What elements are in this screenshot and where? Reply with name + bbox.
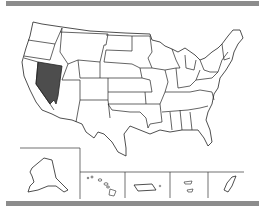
- inset-puerto-rico: [134, 184, 156, 191]
- inset-alaska: [28, 158, 68, 192]
- inset-hawaii: [87, 176, 116, 196]
- us-map: [0, 0, 266, 221]
- inset-guam: [224, 176, 236, 192]
- bottom-divider-bar: [6, 201, 259, 206]
- inset-virgin-islands: [184, 181, 193, 192]
